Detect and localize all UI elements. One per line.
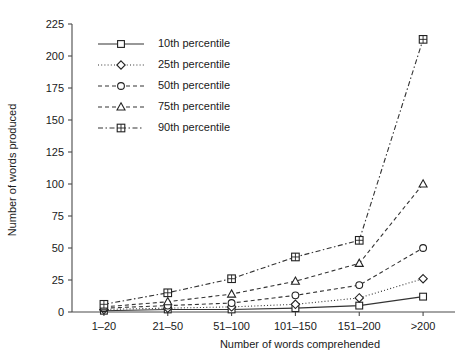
data-point-marker [355,237,363,245]
x-axis-title: Number of words comprehended [220,338,380,350]
data-point-marker [419,36,427,44]
legend-label: 25th percentile [158,58,230,70]
y-tick-label: 100 [46,178,64,190]
series-5 [100,36,427,309]
y-tick-label: 200 [46,50,64,62]
y-tick-label: 225 [46,18,64,30]
data-point-marker [420,245,427,252]
data-point-marker [355,259,363,266]
data-point-marker [356,282,363,289]
legend-marker [117,103,125,110]
data-point-marker [228,290,236,297]
series-4 [100,180,427,310]
y-tick-label: 25 [52,274,64,286]
legend-label: 50th percentile [158,79,230,91]
series-line [104,248,423,308]
data-point-marker [355,294,363,302]
legend-item-1: 10th percentile [98,37,230,49]
series-3 [101,245,427,312]
data-point-marker [100,301,108,309]
legend-marker [118,83,125,90]
legend-marker [117,61,125,69]
line-chart: 0255075100125150175200225 1–2021–5051–10… [0,0,470,363]
series-layer [100,36,428,315]
series-2 [100,275,428,314]
data-point-marker [419,180,427,187]
legend-marker [118,41,125,48]
y-tick-label: 0 [58,306,64,318]
series-line [104,297,423,311]
data-point-marker [292,253,300,261]
x-tick-label: 51–100 [213,320,250,332]
chart-figure: 0255075100125150175200225 1–2021–5051–10… [0,0,470,363]
series-line [104,184,423,307]
x-axis: 1–2021–5051–100101–150151–200>200 [72,312,455,332]
chart-legend: 10th percentile25th percentile50th perce… [98,37,230,133]
y-tick-label: 175 [46,82,64,94]
y-axis-title: Number of words produced [6,104,18,237]
data-point-marker [356,302,363,309]
data-point-marker [292,292,299,299]
legend-item-3: 50th percentile [98,79,230,91]
y-axis: 0255075100125150175200225 [46,18,72,318]
series-line [104,279,423,310]
y-tick-label: 75 [52,210,64,222]
data-point-marker [228,300,235,307]
series-line [104,39,423,304]
x-tick-label: 151–200 [338,320,381,332]
data-point-marker [420,293,427,300]
legend-item-5: 90th percentile [98,121,230,133]
legend-label: 90th percentile [158,121,230,133]
legend-label: 75th percentile [158,100,230,112]
data-point-marker [164,289,172,297]
y-tick-label: 50 [52,242,64,254]
x-tick-label: 21–50 [152,320,183,332]
data-point-marker [419,275,427,283]
y-tick-label: 125 [46,146,64,158]
x-tick-label: >200 [411,320,436,332]
data-point-marker [228,275,236,283]
x-tick-label: 1–20 [92,320,116,332]
x-tick-label: 101–150 [274,320,317,332]
legend-item-2: 25th percentile [98,58,230,70]
legend-item-4: 75th percentile [98,100,230,112]
legend-label: 10th percentile [158,37,230,49]
y-tick-label: 150 [46,114,64,126]
legend-marker [117,124,125,132]
